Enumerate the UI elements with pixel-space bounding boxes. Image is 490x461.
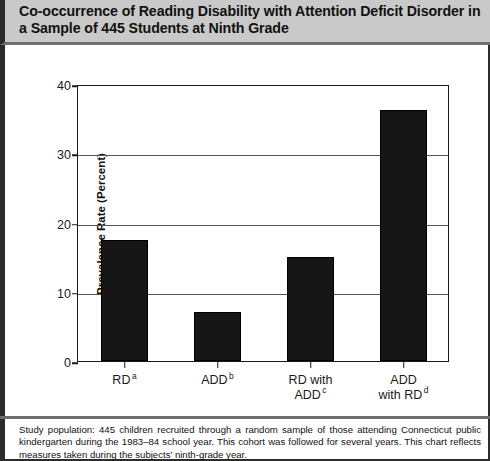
bar: [380, 110, 427, 361]
x-axis-label: RD withADDc: [289, 373, 333, 402]
footnote-marker: d: [424, 385, 429, 395]
x-axis-label: ADDwith RDd: [379, 373, 429, 402]
y-tick-mark: [72, 155, 78, 157]
chart-header-band: Co-occurrence of Reading Disability with…: [0, 0, 490, 45]
bar: [194, 312, 241, 361]
y-tick-mark: [72, 224, 78, 226]
x-axis-label: RDa: [112, 373, 136, 388]
chart-body: Prevalence Rate (Percent) 010203040 RDaA…: [0, 45, 490, 416]
y-tick-label: 0: [64, 356, 71, 370]
y-tick-label: 30: [57, 148, 71, 162]
y-tick-mark: [72, 362, 78, 364]
footnote-text: Study population: 445 children recruited…: [19, 424, 481, 461]
footnote-marker: b: [229, 371, 234, 381]
footnote-marker: c: [322, 385, 326, 395]
y-tick-label: 20: [57, 218, 71, 232]
x-tick-mark: [310, 361, 312, 368]
y-tick-label: 40: [57, 79, 71, 93]
chart-title: Co-occurrence of Reading Disability with…: [19, 3, 485, 37]
footnote-marker: a: [132, 371, 137, 381]
x-tick-mark: [217, 361, 219, 368]
y-tick-mark: [72, 85, 78, 87]
y-tick-label: 10: [57, 287, 71, 301]
bar: [101, 240, 148, 361]
plot-area: Prevalence Rate (Percent) 010203040 RDaA…: [77, 85, 449, 362]
x-tick-mark: [403, 361, 405, 368]
figure-container: Co-occurrence of Reading Disability with…: [0, 0, 490, 461]
x-tick-mark: [124, 361, 126, 368]
footnote-box: Study population: 445 children recruited…: [0, 419, 490, 461]
bar: [287, 257, 334, 361]
x-axis-label: ADDb: [201, 373, 234, 388]
y-tick-mark: [72, 293, 78, 295]
